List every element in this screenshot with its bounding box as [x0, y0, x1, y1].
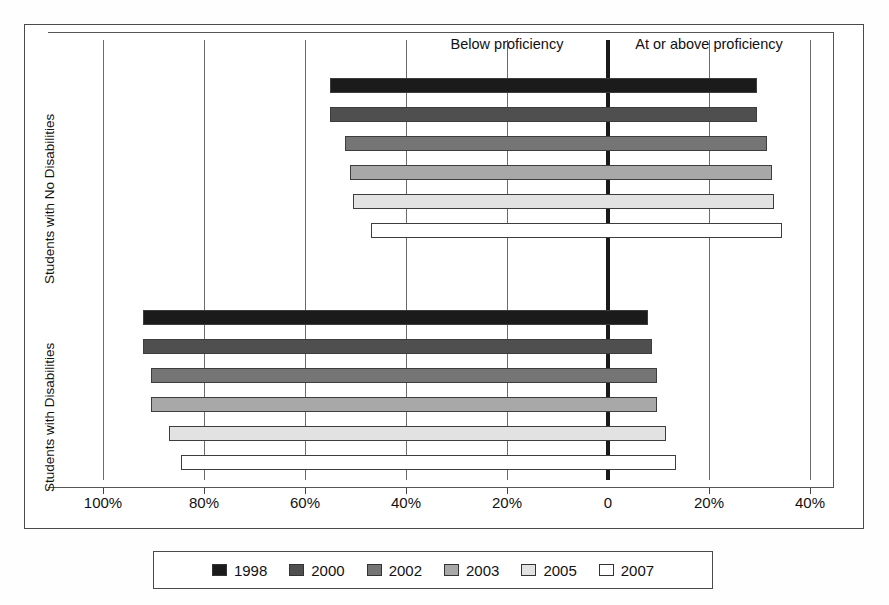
group-label-bottom: Students with Disabilities: [42, 343, 57, 492]
x-axis-tick-label: 0: [604, 494, 612, 511]
zero-axis-line: [606, 40, 610, 480]
x-axis-tick: [103, 488, 104, 494]
bar-2003-group1: [151, 397, 657, 412]
chart-screenshot: 199820002002200320052007 100%80%60%40%20…: [0, 0, 889, 605]
legend-swatch-icon: [521, 564, 536, 576]
legend-label: 2005: [543, 562, 576, 579]
legend-item-2007: 2007: [599, 562, 654, 579]
legend-swatch-icon: [367, 564, 382, 576]
x-axis-tick-label: 20%: [492, 494, 522, 511]
x-axis-tick-label: 40%: [391, 494, 421, 511]
gridline: [507, 40, 508, 480]
x-axis-tick-label: 80%: [189, 494, 219, 511]
bar-2007-group0: [371, 223, 783, 238]
x-axis-tick-label: 40%: [795, 494, 825, 511]
bar-1998-group1: [143, 310, 648, 325]
x-axis-tick: [204, 488, 205, 494]
gridline: [406, 40, 407, 480]
gridline: [709, 40, 710, 480]
x-axis-tick: [507, 488, 508, 494]
bar-2002-group0: [345, 136, 767, 151]
bar-2003-group0: [350, 165, 772, 180]
legend-item-2000: 2000: [289, 562, 344, 579]
legend-label: 2000: [311, 562, 344, 579]
gridline: [305, 40, 306, 480]
x-axis-tick: [810, 488, 811, 494]
legend-swatch-icon: [289, 564, 304, 576]
x-axis-tick-label: 20%: [694, 494, 724, 511]
x-axis-tick: [406, 488, 407, 494]
bar-2000-group1: [143, 339, 652, 354]
bar-2005-group1: [169, 426, 666, 441]
legend-label: 2002: [389, 562, 422, 579]
legend-label: 2007: [621, 562, 654, 579]
gridline: [103, 40, 104, 480]
x-axis-tick: [305, 488, 306, 494]
legend-label: 2003: [466, 562, 499, 579]
legend-item-2005: 2005: [521, 562, 576, 579]
plot-area: [48, 32, 834, 488]
x-axis-tick: [709, 488, 710, 494]
legend-item-2002: 2002: [367, 562, 422, 579]
bar-2000-group0: [330, 107, 757, 122]
legend-swatch-icon: [599, 564, 614, 576]
legend-item-1998: 1998: [212, 562, 267, 579]
legend-label: 1998: [234, 562, 267, 579]
x-axis-tick-label: 100%: [84, 494, 122, 511]
proficiency-header-below: Below proficiency: [451, 36, 564, 52]
group-label-top: Students with No Disabilities: [42, 114, 57, 284]
gridline: [810, 40, 811, 480]
chart-legend: 199820002002200320052007: [153, 551, 713, 589]
legend-swatch-icon: [212, 564, 227, 576]
legend-swatch-icon: [444, 564, 459, 576]
bar-1998-group0: [330, 78, 757, 93]
legend-item-2003: 2003: [444, 562, 499, 579]
gridline: [204, 40, 205, 480]
bar-2002-group1: [151, 368, 657, 383]
x-axis-tick-label: 60%: [290, 494, 320, 511]
plot-frame: [48, 32, 834, 488]
bar-2007-group1: [181, 455, 676, 470]
bar-2005-group0: [353, 194, 774, 209]
proficiency-header-above: At or above proficiency: [635, 36, 783, 52]
